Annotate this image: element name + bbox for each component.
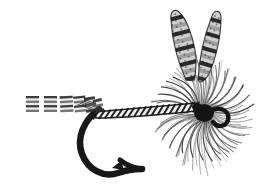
tail-fiber	[60, 96, 74, 113]
tail-fiber	[44, 96, 57, 112]
tail-fiber	[26, 96, 39, 112]
tail	[26, 95, 104, 112]
fly-illustration-canvas: Dry fly with barred wings, radial hackle…	[0, 0, 260, 196]
dry-fly-illustration	[0, 0, 260, 196]
thread-head-wrap	[192, 103, 202, 111]
